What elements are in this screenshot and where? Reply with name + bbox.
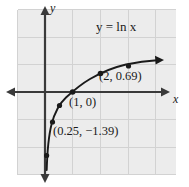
point-label-2-069: (2, 0.69): [99, 70, 142, 83]
graph-canvas: [0, 0, 189, 187]
data-point: [57, 103, 62, 108]
data-point: [126, 63, 131, 68]
point-label-1-0: (1, 0): [69, 96, 96, 109]
y-axis-arrow-down: [41, 174, 50, 183]
x-axis-arrow-left: [6, 88, 15, 97]
log-function-graph-figure: y = ln x y x (2, 0.69) (1, 0) (0.25, −1.…: [0, 0, 189, 187]
x-axis-label: x: [173, 93, 178, 105]
equation-label: y = ln x: [96, 20, 136, 33]
data-point-1-0: [70, 89, 76, 95]
point-label-025-neg139: (0.25, −1.39): [53, 125, 118, 138]
data-point: [44, 153, 49, 158]
y-axis-label: y: [50, 2, 55, 14]
